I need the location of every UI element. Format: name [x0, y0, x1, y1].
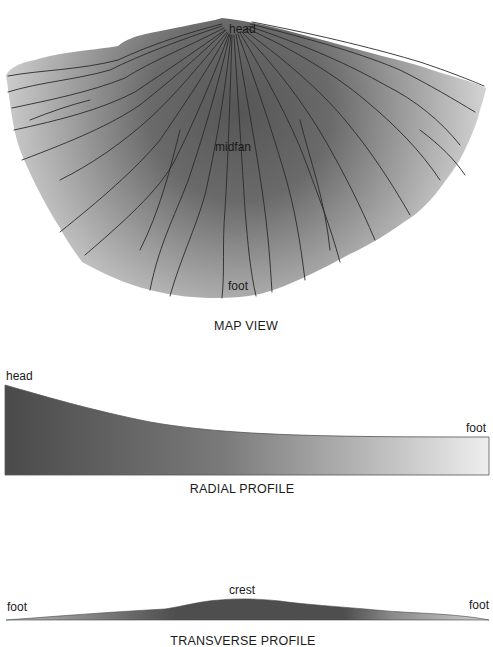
- label-transverse-foot-right: foot: [469, 598, 490, 612]
- label-radial-foot: foot: [466, 421, 487, 435]
- label-head: head: [229, 22, 256, 36]
- caption-transverse-profile: TRANSVERSE PROFILE: [170, 634, 315, 647]
- alluvial-fan-diagram: head midfan foot MAP VIEW head foot RADI…: [0, 0, 493, 647]
- transverse-profile-shape: [6, 599, 489, 620]
- label-foot: foot: [228, 279, 249, 293]
- label-crest: crest: [229, 583, 256, 597]
- transverse-profile: crest foot foot TRANSVERSE PROFILE: [6, 583, 490, 647]
- label-transverse-foot-left: foot: [7, 600, 28, 614]
- label-midfan: midfan: [215, 140, 251, 154]
- radial-profile: head foot RADIAL PROFILE: [5, 369, 489, 496]
- caption-radial-profile: RADIAL PROFILE: [190, 482, 294, 496]
- caption-map-view: MAP VIEW: [214, 319, 278, 333]
- radial-profile-shape: [5, 385, 489, 475]
- label-radial-head: head: [6, 369, 33, 383]
- map-view: head midfan foot MAP VIEW: [6, 18, 486, 333]
